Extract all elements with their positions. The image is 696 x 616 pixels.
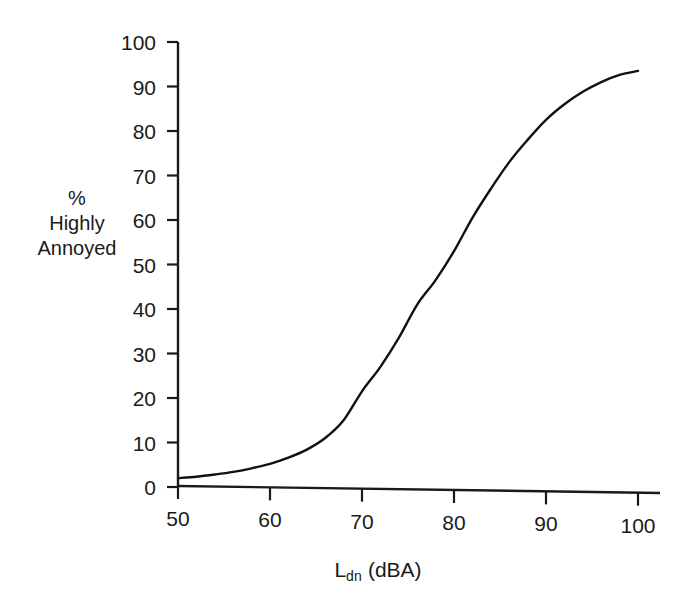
x-axis-line <box>178 486 660 493</box>
y-axis-title-line-3: Annoyed <box>18 236 136 261</box>
axes <box>178 42 660 493</box>
y-axis-title-line-1: % <box>18 186 136 211</box>
y-axis-tick-label: 100 <box>96 32 156 53</box>
y-axis-tick-label: 70 <box>96 165 156 186</box>
data-series-line <box>178 71 638 478</box>
y-axis-tick-label: 80 <box>96 121 156 142</box>
x-axis-tick-label: 60 <box>258 509 281 530</box>
y-axis-tick-label: 10 <box>96 432 156 453</box>
chart-figure: 0102030405060708090100 5060708090100 % H… <box>0 0 696 616</box>
y-axis-tick-label: 40 <box>96 299 156 320</box>
y-axis-title-line-2: Highly <box>18 211 136 236</box>
x-axis-tick-label: 100 <box>620 515 655 536</box>
y-axis-tick-label: 30 <box>96 343 156 364</box>
x-axis-tick-label: 70 <box>350 511 373 532</box>
x-axis-tick-label: 80 <box>442 512 465 533</box>
y-axis-ticks <box>167 42 178 487</box>
x-axis-title-subscript: dn <box>346 568 362 584</box>
y-axis-tick-label: 0 <box>96 477 156 498</box>
x-axis-title-base: L <box>334 558 346 581</box>
y-axis-tick-label: 90 <box>96 76 156 97</box>
x-axis-title: Ldn (dBA) <box>278 558 478 588</box>
x-axis-title-unit: (dBA) <box>362 558 422 581</box>
x-axis-tick-label: 50 <box>166 508 189 529</box>
x-axis-tick-label: 90 <box>534 513 557 534</box>
y-axis-tick-label: 20 <box>96 388 156 409</box>
y-axis-title: % Highly Annoyed <box>18 186 136 261</box>
